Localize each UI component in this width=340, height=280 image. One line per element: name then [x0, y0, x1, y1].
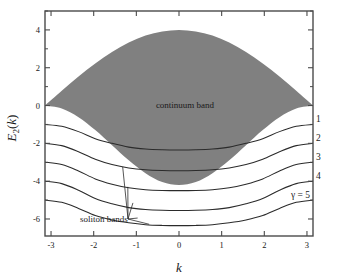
soliton-curve-4 [45, 181, 313, 210]
figure-container: -3-2-10123 420-2-4-6 1234γ = 5 continuum… [0, 0, 340, 280]
y-axis-label-close: ) [4, 115, 19, 119]
leader-line-3 [128, 203, 133, 219]
curve-label-2: 2 [316, 133, 321, 143]
leader-line-1 [123, 167, 128, 219]
leader-line-4 [128, 218, 138, 219]
x-tick-label-0: -3 [47, 240, 54, 250]
continuum-band-annotation: continuum band [156, 100, 215, 110]
x-tick-label-2: -1 [133, 240, 140, 250]
soliton-bands-annotation: soliton bands [80, 214, 128, 224]
x-tick-label-4: 1 [220, 240, 224, 250]
gamma-series-label: γ = 5 [290, 190, 310, 200]
curve-label-3: 3 [316, 152, 321, 162]
dispersion-plot: -3-2-10123 420-2-4-6 1234γ = 5 continuum… [0, 0, 340, 280]
y-tick-label-4: -4 [33, 176, 41, 186]
y-tick-label-2: 0 [36, 101, 40, 111]
x-tick-label-3: 0 [177, 240, 181, 250]
x-axis-label: k [176, 260, 182, 275]
x-axis-tick-labels: -3-2-10123 [47, 240, 309, 250]
y-axis-tick-labels: 420-2-4-6 [33, 25, 41, 224]
curve-label-4: 4 [316, 171, 321, 181]
y-tick-label-5: -6 [33, 214, 40, 224]
x-tick-label-1: -2 [90, 240, 97, 250]
y-axis-label-main: E [4, 133, 19, 142]
y-tick-label-0: 4 [36, 25, 41, 35]
y-axis-label: E2(k) [4, 115, 21, 143]
x-tick-label-6: 3 [305, 240, 309, 250]
curve-labels: 1234γ = 5 [290, 114, 321, 200]
svg-text:E2(k): E2(k) [4, 115, 21, 143]
x-tick-label-5: 2 [262, 240, 266, 250]
curve-label-1: 1 [316, 114, 321, 124]
y-tick-label-1: 2 [36, 63, 40, 73]
y-tick-label-3: -2 [33, 138, 40, 148]
